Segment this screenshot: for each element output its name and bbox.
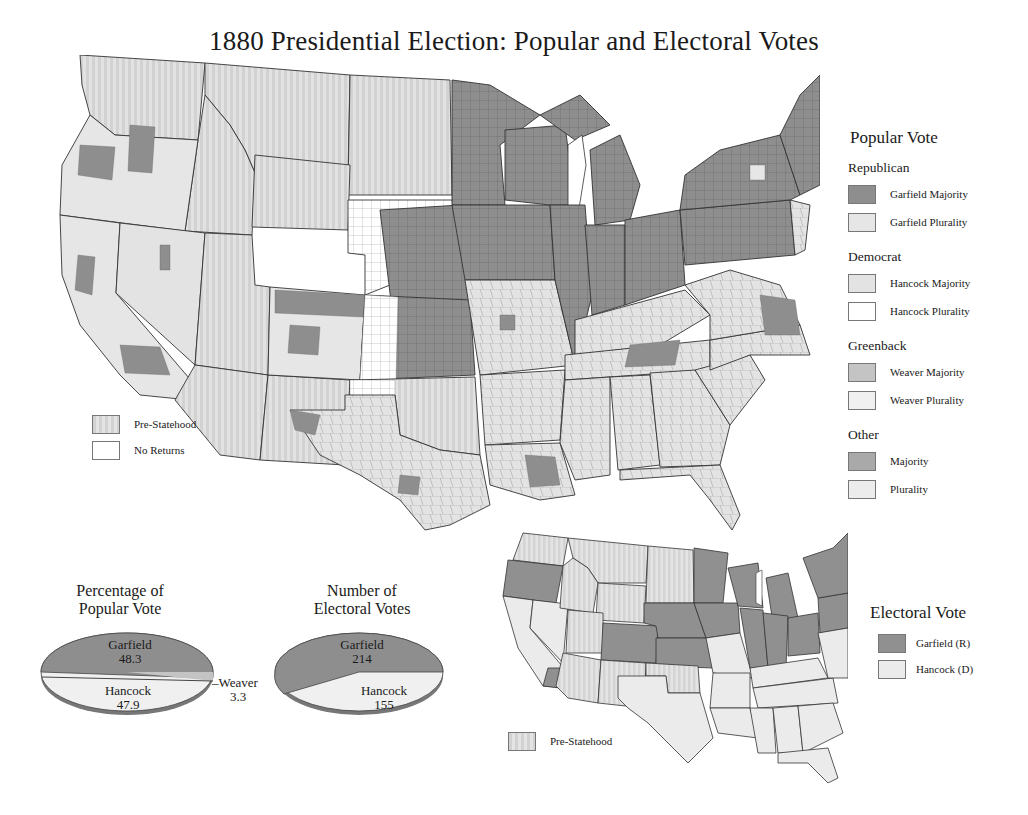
legend-group-greenback: Greenback: [848, 338, 1018, 354]
popular-vote-legend: Popular Vote Republican Garfield Majorit…: [848, 128, 1018, 499]
page-title: 1880 Presidential Election: Popular and …: [0, 26, 1028, 57]
legend-item-garfield-majority: Garfield Majority: [848, 184, 1018, 204]
garfield-label: Garfield: [90, 638, 170, 652]
pre-statehood-swatch: [92, 415, 120, 434]
legend-item-no-returns: No Returns: [92, 440, 196, 460]
no-returns-swatch: [92, 441, 120, 460]
legend-item-other-plurality: Plurality: [848, 479, 1018, 499]
garfield-majority-swatch: [848, 185, 876, 204]
pie-title-line2: Popular Vote: [40, 600, 200, 618]
pie-title-line1: Number of: [282, 582, 442, 600]
hancock-plurality-swatch: [848, 302, 876, 321]
legend-item-garfield-plurality: Garfield Plurality: [848, 212, 1018, 232]
legend-group-republican: Republican: [848, 160, 1018, 176]
weaver-plurality-swatch: [848, 391, 876, 410]
legend-item-hancock-d: Hancock (D): [878, 659, 973, 679]
inset-map-legend: Pre-Statehood: [508, 731, 612, 751]
weaver-majority-swatch: [848, 363, 876, 382]
hancock-value: 47.9: [88, 698, 168, 712]
legend-label: Hancock Majority: [890, 277, 970, 289]
legend-label: Plurality: [890, 483, 928, 495]
weaver-callout: –Weaver 3.3: [206, 676, 264, 704]
legend-label: Pre-Statehood: [550, 735, 612, 747]
legend-item-hancock-majority: Hancock Majority: [848, 273, 1018, 293]
legend-item-pre-statehood: Pre-Statehood: [92, 414, 196, 434]
legend-label: Garfield (R): [916, 637, 970, 649]
legend-label: Pre-Statehood: [134, 418, 196, 430]
legend-item-hancock-plurality: Hancock Plurality: [848, 301, 1018, 321]
legend-heading: Popular Vote: [850, 128, 1018, 148]
other-plurality-swatch: [848, 480, 876, 499]
garfield-electoral-swatch: [878, 634, 906, 653]
weaver-label: –Weaver: [206, 676, 264, 690]
garfield-plurality-swatch: [848, 213, 876, 232]
legend-label: Hancock Plurality: [890, 305, 970, 317]
main-map-legend: Pre-Statehood No Returns: [92, 414, 196, 460]
legend-label: Majority: [890, 455, 929, 467]
pre-statehood-swatch: [508, 732, 536, 751]
hancock-label: Hancock: [88, 684, 168, 698]
pie-title-line2: Electoral Votes: [282, 600, 442, 618]
legend-label: Garfield Plurality: [890, 216, 967, 228]
garfield-label: Garfield: [322, 638, 402, 652]
pie-title-line1: Percentage of: [40, 582, 200, 600]
legend-group-other: Other: [848, 427, 1018, 443]
electoral-vote-legend: Electoral Vote Garfield (R) Hancock (D): [870, 603, 973, 679]
legend-heading: Electoral Vote: [870, 603, 973, 623]
legend-item-garfield-r: Garfield (R): [878, 633, 973, 653]
popular-vote-pie: Garfield 48.3 Hancock 47.9: [40, 628, 215, 718]
legend-group-democrat: Democrat: [848, 249, 1018, 265]
hancock-value: 155: [344, 698, 424, 712]
electoral-vote-pie-title: Number of Electoral Votes: [282, 582, 442, 618]
legend-label: Weaver Plurality: [890, 394, 964, 406]
popular-vote-pie-title: Percentage of Popular Vote: [40, 582, 240, 618]
legend-item-pre-statehood: Pre-Statehood: [508, 731, 612, 751]
legend-label: Hancock (D): [916, 663, 973, 675]
hancock-majority-swatch: [848, 274, 876, 293]
garfield-value: 214: [322, 652, 402, 666]
hancock-label: Hancock: [344, 684, 424, 698]
garfield-value: 48.3: [90, 652, 170, 666]
popular-vote-map: [20, 55, 820, 535]
legend-label: Garfield Majority: [890, 188, 968, 200]
legend-label: Weaver Majority: [890, 366, 965, 378]
electoral-vote-pie: Garfield 214 Hancock 155: [274, 628, 444, 718]
legend-item-weaver-plurality: Weaver Plurality: [848, 390, 1018, 410]
legend-item-other-majority: Majority: [848, 451, 1018, 471]
legend-label: No Returns: [134, 444, 184, 456]
other-majority-swatch: [848, 452, 876, 471]
weaver-value: 3.3: [206, 690, 264, 704]
legend-item-weaver-majority: Weaver Majority: [848, 362, 1018, 382]
hancock-electoral-swatch: [878, 660, 906, 679]
